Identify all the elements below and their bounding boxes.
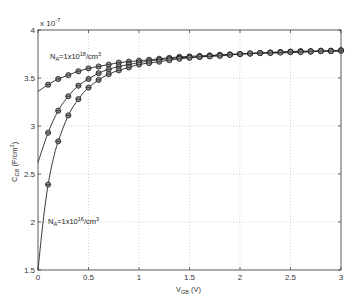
data-point-marker (328, 49, 333, 54)
data-point-marker (207, 54, 212, 59)
data-point-marker (46, 82, 51, 87)
data-point-marker (46, 182, 51, 187)
data-point-marker (227, 52, 232, 57)
data-point-marker (96, 77, 101, 82)
data-point-marker (248, 51, 253, 56)
y-tick-label: 1.5 (24, 266, 36, 275)
data-point-marker (147, 61, 152, 66)
data-point-marker (76, 69, 81, 74)
data-point-marker (106, 62, 111, 67)
data-point-marker (116, 68, 121, 73)
x-tick-label: 0 (36, 273, 41, 282)
data-point-marker (86, 66, 91, 71)
y-tick-label: 3 (31, 122, 36, 131)
data-point-marker (56, 139, 61, 144)
x-tick-label: 2.5 (285, 273, 297, 282)
y-tick-label: 2 (31, 218, 36, 227)
data-point-marker (66, 113, 71, 118)
x-tick-label: 1 (137, 273, 142, 282)
x-tick-label: 1.5 (184, 273, 196, 282)
data-point-marker (96, 71, 101, 76)
data-point-marker (136, 62, 141, 67)
y-tick-label: 3.5 (24, 74, 36, 83)
data-point-marker (308, 49, 313, 54)
data-point-marker (56, 76, 61, 81)
data-point-marker (197, 54, 202, 59)
data-point-marker (167, 58, 172, 63)
data-point-marker (278, 50, 283, 55)
data-point-marker (237, 51, 242, 56)
data-point-marker (217, 53, 222, 58)
data-point-marker (106, 72, 111, 77)
data-point-marker (96, 64, 101, 69)
y-tick-label: 4 (31, 26, 36, 35)
data-point-marker (46, 130, 51, 135)
data-point-marker (268, 50, 273, 55)
data-point-marker (86, 85, 91, 90)
data-point-marker (66, 73, 71, 78)
data-point-marker (288, 49, 293, 54)
capacitance-voltage-chart: 00.511.522.531.522.533.54 x 10-7 VGB (V)… (0, 0, 360, 307)
data-point-marker (56, 108, 61, 113)
data-point-marker (318, 49, 323, 54)
data-point-marker (126, 65, 131, 70)
data-point-marker (86, 76, 91, 81)
data-point-marker (76, 97, 81, 102)
data-point-marker (298, 49, 303, 54)
data-point-marker (157, 59, 162, 64)
x-axis-label: VGB (V) (176, 285, 202, 295)
data-point-marker (76, 83, 81, 88)
chart-background (0, 0, 360, 307)
y-tick-label: 2.5 (24, 170, 36, 179)
x-tick-label: 3 (339, 273, 344, 282)
data-point-marker (258, 50, 263, 55)
data-point-marker (106, 67, 111, 72)
data-point-marker (66, 94, 71, 99)
x-tick-label: 2 (238, 273, 243, 282)
data-point-marker (187, 55, 192, 60)
data-point-marker (177, 56, 182, 61)
x-tick-label: 0.5 (83, 273, 95, 282)
